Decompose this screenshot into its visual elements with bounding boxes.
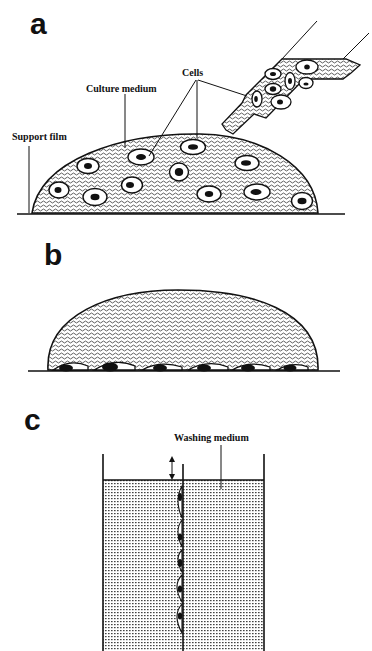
leader-cells-3 — [198, 80, 247, 96]
cell — [285, 73, 295, 90]
cell — [299, 78, 313, 89]
panel-b-letter: b — [44, 238, 62, 271]
cell — [83, 189, 107, 206]
label-culture-medium: Culture medium — [86, 83, 157, 94]
cell — [296, 60, 318, 74]
label-washing-medium: Washing medium — [174, 432, 249, 443]
cell — [170, 163, 189, 181]
cell — [265, 84, 281, 95]
panel-a-letter: a — [30, 7, 47, 40]
cell — [292, 193, 313, 210]
cell — [49, 182, 69, 198]
figure: a — [0, 0, 372, 651]
label-support-film: Support film — [12, 131, 67, 142]
cell — [122, 177, 143, 193]
vertical-motion-arrow-icon — [169, 456, 175, 480]
panel-a: a — [12, 7, 369, 214]
cell — [244, 184, 270, 200]
cell — [252, 91, 262, 107]
panel-b: b — [28, 238, 340, 372]
pipette — [222, 21, 369, 134]
cell — [77, 159, 99, 174]
label-cells: Cells — [182, 67, 203, 78]
cell — [128, 149, 154, 165]
panel-c: c Washing medium — [24, 403, 264, 651]
cell — [235, 156, 259, 171]
cell — [197, 186, 221, 202]
cell — [271, 95, 291, 109]
culture-droplet-b — [48, 290, 318, 370]
panel-c-letter: c — [24, 403, 41, 436]
cell — [181, 140, 206, 155]
cell — [265, 69, 281, 80]
